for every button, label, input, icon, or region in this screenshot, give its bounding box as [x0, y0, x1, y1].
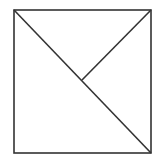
partial-diagonal-line: [82, 10, 151, 80]
geometry-figure: [0, 0, 152, 162]
diagram-canvas: [0, 0, 152, 162]
